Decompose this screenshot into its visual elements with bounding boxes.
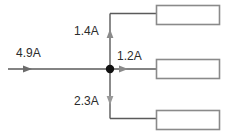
input-current-label: 4.9A	[16, 47, 41, 59]
circuit-svg	[0, 0, 227, 139]
top-branch-arrow-icon	[107, 29, 114, 38]
bottom-load-box	[157, 111, 220, 130]
junction-node	[106, 65, 114, 73]
top-branch-current-label: 1.4A	[74, 25, 99, 37]
circuit-diagram: 4.9A 1.4A 1.2A 2.3A	[0, 0, 227, 139]
middle-load-box	[157, 60, 220, 79]
input-arrow-icon	[23, 66, 32, 73]
middle-branch-arrow-icon	[119, 66, 128, 73]
bottom-branch-arrow-icon	[107, 96, 114, 105]
middle-branch-current-label: 1.2A	[117, 50, 142, 62]
bottom-branch-current-label: 2.3A	[74, 95, 99, 107]
top-load-box	[157, 6, 220, 25]
